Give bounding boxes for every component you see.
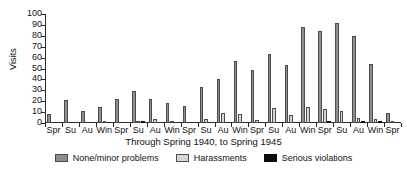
bar: [170, 121, 174, 123]
bar: [361, 121, 365, 123]
bar-group: [318, 14, 331, 123]
bar-group: [183, 14, 196, 123]
y-tick-label: 50: [32, 63, 42, 73]
bar: [285, 65, 289, 123]
bar: [369, 64, 373, 123]
bar-group: [64, 14, 77, 123]
bar: [327, 121, 331, 123]
x-tick-label: Spr: [113, 124, 130, 136]
x-tick-label: Au: [79, 124, 96, 136]
bar-group: [234, 14, 247, 123]
bar: [340, 111, 344, 123]
bar: [378, 121, 382, 123]
x-tick-label: Su: [198, 124, 215, 136]
y-tick-label: 10: [32, 106, 42, 116]
y-tick-label: 30: [32, 84, 42, 94]
bar: [64, 100, 68, 123]
x-tick-label: Su: [130, 124, 147, 136]
y-tick-label: 20: [32, 95, 42, 105]
bar: [289, 115, 293, 123]
bar: [357, 118, 361, 123]
legend-swatch: [176, 154, 189, 162]
x-tick-label: Su: [265, 124, 282, 136]
bar: [255, 120, 259, 123]
x-tick-label: Spr: [45, 124, 62, 136]
bar: [306, 107, 310, 123]
bar-group: [217, 14, 230, 123]
bar: [272, 108, 276, 123]
x-tick-label: Au: [350, 124, 367, 136]
bar-group: [149, 14, 162, 123]
bar: [103, 121, 107, 123]
bar: [153, 119, 157, 123]
bar: [251, 70, 255, 123]
bar-chart: Visits 0102030405060708090100 SprSuAuWin…: [0, 0, 407, 177]
x-tick-label: Spr: [316, 124, 333, 136]
bar: [318, 31, 322, 123]
bar: [115, 99, 119, 123]
bar: [268, 54, 272, 123]
plot-area: 0102030405060708090100: [45, 14, 401, 123]
bar-group: [132, 14, 145, 123]
bar: [323, 109, 327, 123]
legend-item[interactable]: Serious violations: [264, 153, 353, 163]
legend-label: None/minor problems: [73, 153, 159, 163]
bar-group: [352, 14, 365, 123]
x-tick-label: Su: [333, 124, 350, 136]
bar: [98, 107, 102, 123]
x-axis-title: Through Spring 1940, to Spring 1945: [0, 136, 407, 147]
x-tick-label: Au: [147, 124, 164, 136]
bar: [386, 113, 390, 123]
x-tick-label: Au: [282, 124, 299, 136]
bar: [234, 61, 238, 123]
y-tick-label: 0: [37, 117, 42, 127]
bar: [200, 87, 204, 123]
x-tick-label: Win: [299, 124, 316, 136]
x-tick-label: Win: [164, 124, 181, 136]
bar: [301, 27, 305, 123]
bar-group: [369, 14, 382, 123]
bar: [81, 111, 85, 123]
x-tick-label: Win: [367, 124, 384, 136]
bar: [352, 36, 356, 123]
bar: [221, 113, 225, 123]
bar: [47, 114, 51, 123]
bar-group: [268, 14, 281, 123]
x-tick-mark: [401, 123, 402, 127]
bar: [335, 23, 339, 123]
y-tick-label: 90: [32, 19, 42, 29]
bar-group: [47, 14, 60, 123]
legend-swatch: [264, 154, 277, 162]
bar-group: [81, 14, 94, 123]
y-tick-label: 70: [32, 41, 42, 51]
bar-group: [166, 14, 179, 123]
bar: [217, 79, 221, 123]
y-tick-label: 100: [27, 8, 42, 18]
bar-group: [115, 14, 128, 123]
y-tick-label: 80: [32, 30, 42, 40]
bar: [204, 119, 208, 123]
legend-swatch: [55, 154, 68, 162]
bar: [141, 121, 145, 123]
bar: [136, 121, 140, 123]
x-tick-label: Au: [215, 124, 232, 136]
bar-group: [335, 14, 348, 123]
bar: [166, 103, 170, 123]
chart-legend: None/minor problemsHarassmentsSerious vi…: [0, 153, 407, 163]
y-axis-title: Visits: [8, 29, 18, 89]
legend-label: Harassments: [194, 153, 247, 163]
x-tick-label: Win: [96, 124, 113, 136]
legend-label: Serious violations: [282, 153, 353, 163]
x-tick-label: Su: [62, 124, 79, 136]
bar: [374, 119, 378, 123]
x-tick-label: Win: [231, 124, 248, 136]
bar: [149, 99, 153, 123]
x-tick-label: Spr: [384, 124, 401, 136]
y-tick-label: 60: [32, 52, 42, 62]
bar: [183, 106, 187, 123]
legend-item[interactable]: None/minor problems: [55, 153, 159, 163]
x-tick-label: Spr: [181, 124, 198, 136]
bar-group: [200, 14, 213, 123]
y-tick-label: 40: [32, 73, 42, 83]
legend-item[interactable]: Harassments: [176, 153, 247, 163]
